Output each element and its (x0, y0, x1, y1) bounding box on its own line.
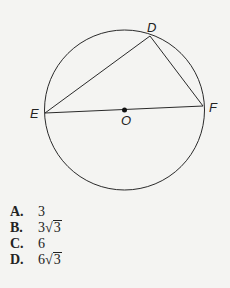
sqrt-symbol: √ (45, 220, 53, 236)
choice-value: 3 (38, 204, 45, 220)
label-e: E (30, 106, 39, 121)
choice-value: 6 (38, 236, 45, 252)
sqrt-symbol: √ (45, 252, 53, 268)
choice-a[interactable]: A. 3 (10, 204, 62, 220)
answer-choices: A. 3 B. 3 √3 C. 6 D. 6 √3 (10, 204, 62, 268)
chord-ed (45, 36, 150, 113)
choice-letter: D. (10, 252, 38, 268)
label-f: F (209, 100, 217, 115)
label-d: D (147, 20, 156, 35)
choice-c[interactable]: C. 6 (10, 236, 62, 252)
choice-letter: B. (10, 220, 38, 236)
circle-diagram (0, 0, 230, 200)
radicand: 3 (53, 220, 62, 236)
center-point (122, 108, 127, 113)
radicand: 3 (53, 252, 62, 268)
choice-value: 3 (38, 220, 45, 236)
choice-letter: C. (10, 236, 38, 252)
choice-letter: A. (10, 204, 38, 220)
label-o: O (121, 113, 131, 128)
choice-d[interactable]: D. 6 √3 (10, 252, 62, 268)
choice-b[interactable]: B. 3 √3 (10, 220, 62, 236)
chord-df (150, 36, 203, 106)
choice-value: 6 (38, 252, 45, 268)
